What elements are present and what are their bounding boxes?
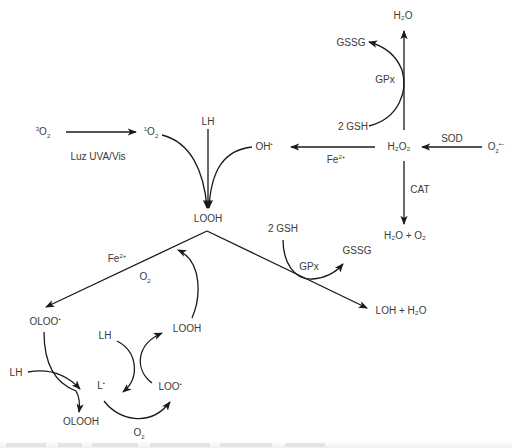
h2o2-label: H₂O₂ <box>388 141 411 153</box>
hydroxyl-radical-label: OH• <box>255 141 272 153</box>
arrow-l-radical-to-loo <box>104 401 170 419</box>
arrow-loo-to-looh <box>140 333 162 383</box>
lh-left-label: LH <box>10 367 23 379</box>
gpx-top-label: GPx <box>375 74 394 86</box>
fe2-left-label: Fe2+ <box>108 253 127 265</box>
lipid-peroxidation-diagram <box>0 0 512 448</box>
looh-cycle-label: LOOH <box>173 323 201 335</box>
lh-top-label: LH <box>202 116 215 128</box>
lh-cycle-label: LH <box>99 330 112 342</box>
arrow-gsh-to-gssg-mid <box>283 240 343 279</box>
branch-looh-left <box>46 231 207 307</box>
triplet-oxygen-label: 3O2 <box>36 126 50 138</box>
fe2-fenton-label: Fe2+ <box>327 154 346 166</box>
gssg-top-label: GSSG <box>337 37 366 49</box>
o2-bottom-label: O2 <box>133 427 144 439</box>
branch-looh-right <box>207 231 367 308</box>
gsh-mid-label: 2 GSH <box>268 223 298 235</box>
arrow-hydroxyl-to-looh <box>209 147 252 208</box>
o2-left-label: O2 <box>139 271 150 283</box>
truncated-caption <box>0 441 512 448</box>
gssg-mid-label: GSSG <box>343 245 372 257</box>
loo-radical-label: LOO• <box>158 381 181 393</box>
light-label: Luz UVA/Vis <box>70 151 125 163</box>
arrow-looh-cycle-up <box>178 250 198 318</box>
h2o-top-label: H₂O <box>394 10 413 22</box>
loh-water-label: LOH + H₂O <box>376 305 427 317</box>
olooh-label: OLOOH <box>63 416 99 428</box>
gpx-mid-label: GPx <box>299 261 318 273</box>
sod-label: SOD <box>441 133 463 145</box>
arrow-singlet-to-looh <box>162 135 207 208</box>
water-oxygen-label: H₂O + O₂ <box>384 230 426 242</box>
oloo-radical-label: OLOO• <box>29 316 60 328</box>
gsh-top-label: 2 GSH <box>338 121 368 133</box>
superoxide-label: O2•− <box>488 141 505 153</box>
l-radical-label: L• <box>97 380 105 392</box>
looh-center-label: LOOH <box>194 213 222 225</box>
singlet-oxygen-label: 1O2 <box>144 126 158 138</box>
arrow-lh-to-l-radical <box>117 341 134 392</box>
cat-label: CAT <box>410 184 429 196</box>
